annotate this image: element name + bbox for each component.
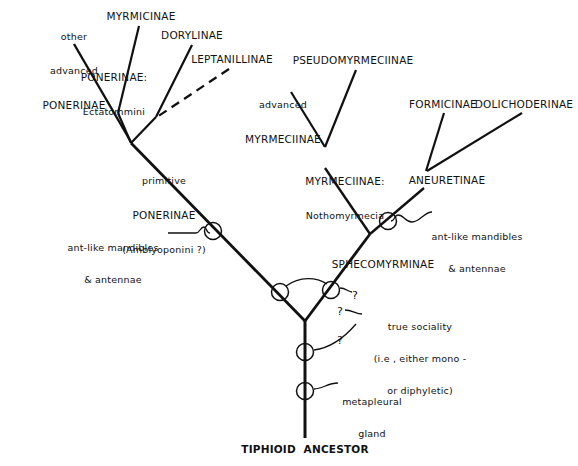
leader-sociality-stem (314, 324, 356, 350)
leader-sociality-mid (345, 310, 362, 314)
taxon-aneuretinae: ANEURETINAE (409, 175, 486, 187)
taxon-sphecomyrminae: SPHECOMYRMINAE (332, 259, 435, 271)
taxon-myrmeciinae-nothomyrmecia-line1: MYRMECIINAE: (305, 176, 385, 188)
taxon-pseudomyrmeciinae: PSEUDOMYRMECIINAE (293, 55, 414, 67)
taxon-ponerinae-ectatommini: PONERINAE: Ectatommini (81, 48, 148, 141)
annotation-true-sociality-line2: (i.e , either mono - (374, 354, 467, 365)
taxon-dorylinae: DORYLINAE (161, 30, 223, 42)
branch-pseudomyrmeciinae (325, 70, 356, 147)
annotation-ant-like-right: ant-like mandibles & antennae (431, 211, 522, 296)
question-mark-lower: ? (337, 335, 343, 347)
annotation-metapleural-gland: metapleural gland (342, 376, 402, 461)
taxon-advanced-myrmeciinae-line2: MYRMECIINAE (245, 134, 321, 146)
question-mark-mid: ? (337, 306, 343, 318)
taxon-myrmicinae: MYRMICINAE (106, 11, 175, 23)
taxon-primitive-ponerinae-line2: PONERINAE (122, 210, 206, 222)
taxon-formicinae: FORMICINAE (409, 99, 477, 111)
phylogenetic-tree-figure: other advanced PONERINAE MYRMICINAE PONE… (0, 0, 578, 466)
annotation-metapleural-gland-line2: gland (342, 429, 402, 440)
annotation-ant-like-right-line1: ant-like mandibles (431, 232, 522, 243)
taxon-primitive-ponerinae-line1: primitive (122, 176, 206, 187)
annotation-ant-like-left: ant-like mandibles & antennae (67, 222, 158, 307)
leader-sociality-upper (340, 288, 352, 292)
question-mark-upper-right: ? (352, 290, 358, 302)
leader-metapleural (314, 383, 338, 389)
taxon-myrmeciinae-nothomyrmecia-line2: Nothomyrmecia (305, 211, 385, 222)
taxon-leptanillinae: LEPTANILLINAE (191, 54, 273, 66)
taxon-ponerinae-ectatommini-line1: PONERINAE: (81, 72, 148, 84)
annotation-true-sociality-line1: true sociality (374, 322, 467, 333)
annotation-ant-like-left-line1: ant-like mandibles (67, 243, 158, 254)
node-sociality-left-circle (272, 284, 289, 301)
taxon-dolichoderinae: DOLICHODERINAE (475, 99, 573, 111)
taxon-ponerinae-ectatommini-line2: Ectatommini (81, 107, 148, 118)
taxon-other-advanced-ponerinae-line1: other (43, 32, 106, 43)
taxon-advanced-myrmeciinae-line1: advanced (245, 100, 321, 111)
annotation-metapleural-gland-line1: metapleural (342, 397, 402, 408)
annotation-ant-like-right-line2: & antennae (431, 264, 522, 275)
taxon-myrmeciinae-nothomyrmecia: MYRMECIINAE: Nothomyrmecia (305, 152, 385, 245)
annotation-ant-like-left-line2: & antennae (67, 275, 158, 286)
leader-sociality-arc (286, 279, 327, 286)
